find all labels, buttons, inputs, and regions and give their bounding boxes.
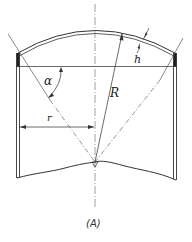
label-R: R: [110, 87, 119, 99]
radius-r-arrow-left: [20, 125, 26, 129]
left-angle-line-dashed: [50, 100, 95, 162]
figure-caption: (A): [86, 219, 101, 229]
label-h: h: [134, 54, 141, 65]
radius-R-arrowhead: [120, 33, 124, 41]
alpha-arrow-bottom: [48, 93, 54, 98]
right-angle-line-dashed: [95, 80, 160, 162]
label-alpha: α: [44, 75, 52, 87]
diagram-drawing: [0, 0, 192, 242]
thickness-h-arrow-top: [144, 32, 148, 38]
label-r: r: [47, 113, 52, 123]
head-inner-arc: [19, 34, 174, 57]
torispherical-head-diagram: α R r h (A): [0, 0, 192, 242]
right-angle-line-solid: [160, 38, 183, 80]
alpha-arrow-top: [59, 67, 63, 72]
radius-r-arrow-right: [88, 125, 94, 129]
